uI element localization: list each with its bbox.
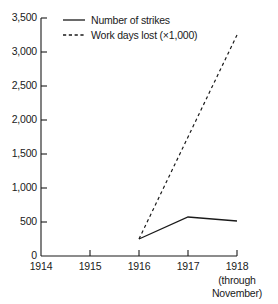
- series-number-of-strikes: [139, 217, 237, 239]
- y-axis-tick-labels: 3,500 3,000 2,500 2,000 1,500 1,000 500 …: [0, 0, 37, 304]
- chart-legend: Number of strikes Work days lost (×1,000…: [63, 13, 263, 43]
- y-axis-ticks: [41, 18, 47, 222]
- y-tick-label-2000: 2,000: [1, 114, 37, 125]
- y-tick-label-3500: 3,500: [1, 12, 37, 23]
- x-axis-ticks: [90, 250, 237, 256]
- x-tick-label-1916: 1916: [116, 260, 162, 272]
- line-chart: 3,500 3,000 2,500 2,000 1,500 1,000 500 …: [0, 0, 278, 304]
- legend-item-work-days-lost: Work days lost (×1,000): [63, 28, 263, 41]
- x-tick-label-1914: 1914: [18, 260, 64, 272]
- x-tick-label-1917: 1917: [165, 260, 211, 272]
- legend-label-number-of-strikes: Number of strikes: [91, 14, 170, 26]
- legend-item-number-of-strikes: Number of strikes: [63, 13, 263, 26]
- x-tick-label-1915: 1915: [67, 260, 113, 272]
- y-tick-label-3000: 3,000: [1, 46, 37, 57]
- legend-dashed-line-icon: [63, 30, 85, 40]
- y-tick-label-500: 500: [1, 216, 37, 227]
- x-axis-note-line-1: (through: [200, 274, 274, 287]
- x-tick-label-1918: 1918: [214, 260, 260, 272]
- series-work-days-lost: [139, 35, 237, 239]
- y-tick-label-1500: 1,500: [1, 148, 37, 159]
- chart-plot-area: [0, 0, 278, 304]
- y-tick-label-1000: 1,000: [1, 182, 37, 193]
- y-tick-label-2500: 2,500: [1, 80, 37, 91]
- x-axis-note-line-2: November): [200, 287, 274, 300]
- legend-label-work-days-lost: Work days lost (×1,000): [91, 29, 197, 41]
- legend-solid-line-icon: [63, 15, 85, 25]
